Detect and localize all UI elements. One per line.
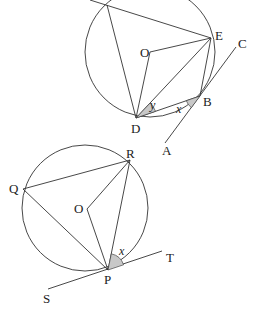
label-R: R xyxy=(126,146,135,161)
label-S: S xyxy=(43,291,50,306)
figure-bottom: R Q O P T S x xyxy=(9,145,174,306)
line-to-E xyxy=(90,0,211,38)
label-P: P xyxy=(104,272,111,287)
chord-QP xyxy=(23,189,108,270)
chord-EB xyxy=(200,38,211,96)
figure-top: O E C B D A y x xyxy=(85,0,247,158)
radius-OR xyxy=(87,160,130,209)
label-A: A xyxy=(162,143,172,158)
angle-label-y: y xyxy=(149,98,156,112)
radius-OE xyxy=(150,38,211,52)
label-C: C xyxy=(238,36,247,51)
label-D: D xyxy=(131,121,140,136)
label-B: B xyxy=(203,94,212,109)
label-O-top: O xyxy=(140,45,149,60)
label-E: E xyxy=(215,28,223,43)
chord-top-D xyxy=(107,5,136,118)
angle-x-shade xyxy=(186,96,200,108)
label-Q: Q xyxy=(9,181,19,196)
angle-label-x-top: x xyxy=(175,102,182,116)
label-O-bottom: O xyxy=(74,201,83,216)
label-T: T xyxy=(166,250,174,265)
radius-OP xyxy=(87,209,108,270)
geometry-figures: O E C B D A y x R Q O P T S x xyxy=(0,0,258,324)
angle-label-x-bottom: x xyxy=(118,244,125,258)
tangent-AC xyxy=(165,47,236,143)
